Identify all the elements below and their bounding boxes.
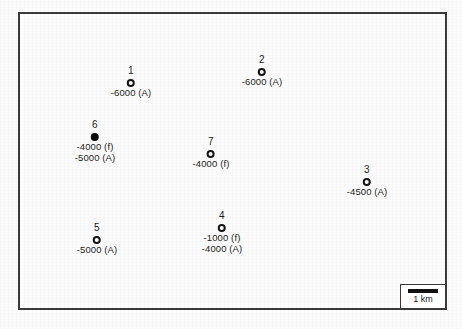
site-marker-wrap bbox=[242, 65, 283, 76]
scale-bar: 1 km bbox=[400, 284, 446, 309]
site-marker-wrap bbox=[77, 233, 118, 244]
filled-circle-icon bbox=[91, 133, 99, 141]
site-3: 3-4500 (A) bbox=[347, 164, 388, 197]
site-id-label: 3 bbox=[347, 164, 388, 175]
site-value-line: -5000 (A) bbox=[77, 244, 118, 255]
site-values: -4000 (f)-5000 (A) bbox=[75, 141, 116, 163]
site-values: -6000 (A) bbox=[111, 87, 152, 98]
site-value-line: -6000 (A) bbox=[111, 87, 152, 98]
site-value-line: -4000 (A) bbox=[202, 243, 243, 254]
site-marker-wrap bbox=[193, 147, 230, 158]
site-4: 4-1000 (f)-4000 (A) bbox=[202, 210, 243, 254]
site-id-label: 2 bbox=[242, 54, 283, 65]
open-circle-icon bbox=[258, 68, 266, 76]
site-2: 2-6000 (A) bbox=[242, 54, 283, 87]
site-value-line: -4500 (A) bbox=[347, 186, 388, 197]
site-marker-wrap bbox=[202, 221, 243, 232]
open-circle-icon bbox=[127, 79, 135, 87]
open-circle-icon bbox=[93, 236, 101, 244]
site-1: 1-6000 (A) bbox=[111, 65, 152, 98]
site-id-label: 6 bbox=[75, 119, 116, 130]
site-marker-wrap bbox=[75, 130, 116, 141]
site-marker-wrap bbox=[347, 175, 388, 186]
scale-bar-line bbox=[408, 289, 438, 293]
site-id-label: 5 bbox=[77, 222, 118, 233]
open-circle-icon bbox=[363, 178, 371, 186]
site-value-line: -1000 (f) bbox=[202, 232, 243, 243]
scale-bar-label: 1 km bbox=[413, 294, 433, 304]
open-circle-icon bbox=[207, 150, 215, 158]
site-values: -4500 (A) bbox=[347, 186, 388, 197]
site-value-line: -5000 (A) bbox=[75, 152, 116, 163]
site-value-line: -6000 (A) bbox=[242, 76, 283, 87]
site-id-label: 7 bbox=[193, 136, 230, 147]
figure-container: 1-6000 (A)2-6000 (A)3-4500 (A)4-1000 (f)… bbox=[0, 0, 463, 329]
site-marker-wrap bbox=[111, 76, 152, 87]
site-values: -5000 (A) bbox=[77, 244, 118, 255]
open-circle-icon bbox=[218, 224, 226, 232]
site-values: -4000 (f) bbox=[193, 158, 230, 169]
site-value-line: -4000 (f) bbox=[75, 141, 116, 152]
site-id-label: 4 bbox=[202, 210, 243, 221]
site-value-line: -4000 (f) bbox=[193, 158, 230, 169]
site-id-label: 1 bbox=[111, 65, 152, 76]
site-values: -6000 (A) bbox=[242, 76, 283, 87]
site-6: 6-4000 (f)-5000 (A) bbox=[75, 119, 116, 163]
site-values: -1000 (f)-4000 (A) bbox=[202, 232, 243, 254]
site-5: 5-5000 (A) bbox=[77, 222, 118, 255]
site-7: 7-4000 (f) bbox=[193, 136, 230, 169]
